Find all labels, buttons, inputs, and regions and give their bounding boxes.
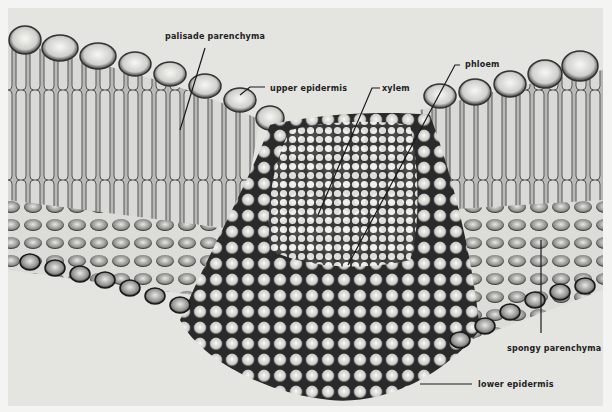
label-lower-epidermis: lower epidermis (478, 380, 554, 389)
label-palisade-parenchyma: palisade parenchyma (165, 32, 265, 41)
micrograph: palisade parenchyma upper epidermis xyle… (8, 8, 603, 406)
label-phloem: phloem (465, 60, 500, 69)
label-upper-epidermis: upper epidermis (270, 84, 347, 93)
label-spongy-parenchyma: spongy parenchyma (507, 344, 601, 353)
label-xylem: xylem (382, 84, 410, 93)
figure-frame: palisade parenchyma upper epidermis xyle… (0, 0, 612, 412)
